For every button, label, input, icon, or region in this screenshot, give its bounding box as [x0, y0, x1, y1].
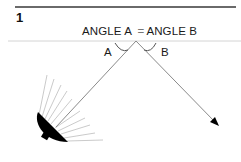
- reflection-diagram: [0, 0, 241, 162]
- angle-b-label: B: [161, 46, 169, 58]
- angle-b-arc: [144, 43, 156, 51]
- incident-ray: [56, 41, 136, 127]
- angle-a-arc: [115, 43, 128, 51]
- lamp-icon: [37, 112, 68, 142]
- angle-a-label: A: [104, 46, 112, 58]
- reflected-ray: [136, 41, 215, 122]
